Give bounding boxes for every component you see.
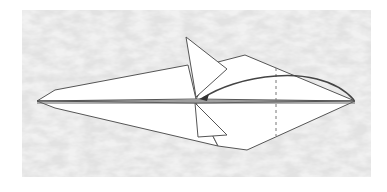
origami-diagram: [0, 0, 387, 192]
